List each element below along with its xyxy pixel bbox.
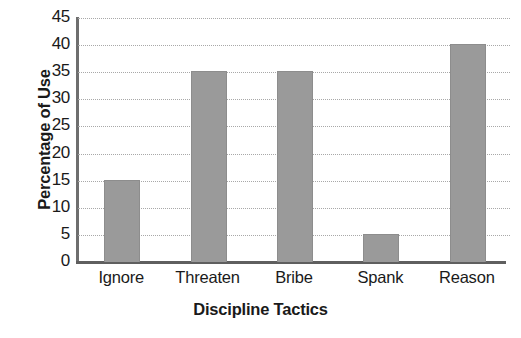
- y-tick-label: 5: [30, 224, 70, 244]
- gridline: [78, 45, 510, 46]
- y-tick-label: 45: [30, 7, 70, 27]
- bar: [277, 71, 313, 262]
- x-tick-label: Reason: [397, 268, 521, 287]
- x-axis-title: Discipline Tactics: [0, 300, 521, 319]
- bar: [191, 71, 227, 262]
- y-tick-label: 40: [30, 34, 70, 54]
- y-tick-label: 20: [30, 143, 70, 163]
- y-tick-label: 25: [30, 115, 70, 135]
- plot-area: [78, 18, 510, 262]
- gridline: [78, 18, 510, 19]
- bar: [104, 180, 140, 262]
- bar: [450, 44, 486, 262]
- y-tick-label: 35: [30, 61, 70, 81]
- y-tick-label: 30: [30, 88, 70, 108]
- y-tick-label: 10: [30, 197, 70, 217]
- y-tick-label: 15: [30, 170, 70, 190]
- bar-chart: Percentage of Use 051015202530354045 Ign…: [0, 0, 521, 338]
- bar: [363, 234, 399, 262]
